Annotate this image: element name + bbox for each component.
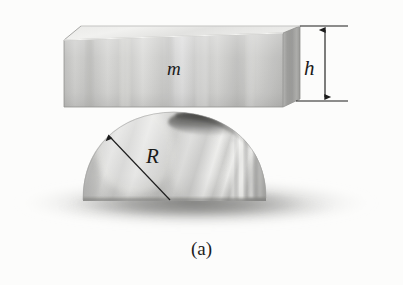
physics-figure: m h R (a) bbox=[0, 0, 403, 285]
radius-label: R bbox=[146, 146, 159, 167]
height-label: h bbox=[304, 58, 315, 79]
figure-caption: (a) bbox=[0, 238, 403, 260]
mass-label: m bbox=[167, 59, 181, 78]
